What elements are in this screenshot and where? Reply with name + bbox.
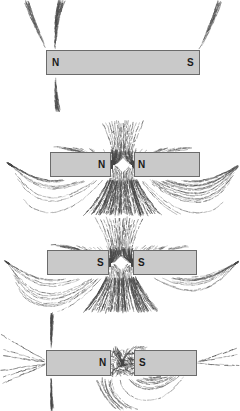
panel-north-south-pole-label-s-21: S: [139, 358, 146, 368]
panel-north-north-pole-label-n-11: N: [98, 160, 105, 170]
panel-south-south-pole-label-s-11: S: [97, 258, 104, 268]
magnetic-field-figure: NSNNSSNS: [0, 0, 240, 411]
panel-north-south-pole-label-n-11: N: [99, 358, 106, 368]
panel-single-magnet-pole-label-s-12: S: [187, 58, 194, 68]
panel-north-north-pole-label-n-21: N: [138, 160, 145, 170]
panel-single-magnet-magnet-1: [46, 50, 200, 75]
panel-south-south-pole-label-s-21: S: [138, 258, 145, 268]
panel-single-magnet-pole-label-n-11: N: [52, 58, 59, 68]
